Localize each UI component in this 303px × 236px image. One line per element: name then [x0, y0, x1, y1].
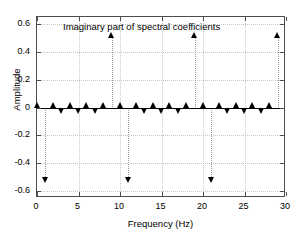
y-axis-label: Amplitude [11, 50, 22, 130]
gridline-horizontal [37, 135, 284, 137]
stem-line [195, 38, 197, 108]
y-tick-mark [280, 52, 284, 53]
data-marker [133, 102, 139, 108]
y-tick-mark [37, 24, 41, 25]
x-tick-mark [286, 17, 287, 21]
gridline-horizontal [37, 80, 284, 82]
data-marker [42, 177, 48, 183]
gridline-vertical [245, 17, 247, 196]
data-marker [108, 32, 114, 38]
data-marker [83, 102, 89, 108]
figure-canvas: Imaginary part of spectral coefficients … [0, 0, 303, 236]
data-marker [249, 102, 255, 108]
data-marker [141, 108, 147, 114]
x-tick-label: 25 [238, 201, 248, 211]
data-marker [67, 102, 73, 108]
x-tick-label: 0 [33, 201, 38, 211]
data-marker [100, 102, 106, 108]
gridline-vertical [79, 17, 81, 196]
y-tick-label: -0.6 [0, 185, 30, 195]
plot-area: Imaginary part of spectral coefficients [36, 16, 285, 197]
gridline-horizontal [37, 52, 284, 54]
x-tick-mark [162, 192, 163, 196]
data-marker [75, 108, 81, 114]
stem-line [112, 38, 114, 108]
x-tick-label: 20 [197, 201, 207, 211]
data-marker [125, 177, 131, 183]
data-marker [58, 108, 64, 114]
y-tick-mark [37, 52, 41, 53]
stem-line [278, 38, 280, 108]
y-tick-label: -0.2 [0, 129, 30, 139]
data-marker [50, 102, 56, 108]
y-tick-label: 0.6 [0, 18, 30, 28]
y-tick-mark [280, 163, 284, 164]
y-tick-mark [37, 191, 41, 192]
y-tick-label: -0.4 [0, 157, 30, 167]
stem-line [211, 108, 213, 178]
x-tick-mark [245, 192, 246, 196]
data-marker [258, 108, 264, 114]
x-tick-label: 10 [114, 201, 124, 211]
data-marker [241, 108, 247, 114]
x-tick-label: 30 [280, 201, 290, 211]
stem-line [45, 108, 47, 178]
y-tick-mark [37, 80, 41, 81]
x-tick-label: 5 [75, 201, 80, 211]
y-tick-mark [37, 163, 41, 164]
data-marker [208, 177, 214, 183]
x-tick-mark [79, 192, 80, 196]
x-axis-label: Frequency (Hz) [36, 218, 285, 229]
y-tick-mark [37, 135, 41, 136]
plot-title: Imaginary part of spectral coefficients [63, 21, 220, 32]
data-marker [183, 102, 189, 108]
data-marker [117, 102, 123, 108]
x-tick-mark [37, 17, 38, 21]
y-tick-mark [37, 108, 41, 109]
data-marker [266, 102, 272, 108]
data-marker [175, 108, 181, 114]
gridline-horizontal [37, 191, 284, 193]
y-tick-mark [280, 191, 284, 192]
data-marker [274, 32, 280, 38]
x-tick-mark [286, 192, 287, 196]
x-tick-label: 15 [155, 201, 165, 211]
y-tick-mark [280, 135, 284, 136]
data-marker [224, 108, 230, 114]
x-tick-mark [203, 192, 204, 196]
stem-line [128, 108, 130, 178]
gridline-horizontal [37, 163, 284, 165]
gridline-vertical [162, 17, 164, 196]
data-marker [216, 102, 222, 108]
x-tick-mark [37, 192, 38, 196]
data-marker [150, 102, 156, 108]
x-tick-mark [245, 17, 246, 21]
y-tick-mark [280, 80, 284, 81]
x-tick-mark [120, 192, 121, 196]
y-tick-mark [280, 108, 284, 109]
data-marker [92, 108, 98, 114]
data-marker [233, 102, 239, 108]
data-marker [158, 108, 164, 114]
data-marker [200, 102, 206, 108]
y-tick-mark [280, 24, 284, 25]
data-marker [191, 32, 197, 38]
data-marker [166, 102, 172, 108]
